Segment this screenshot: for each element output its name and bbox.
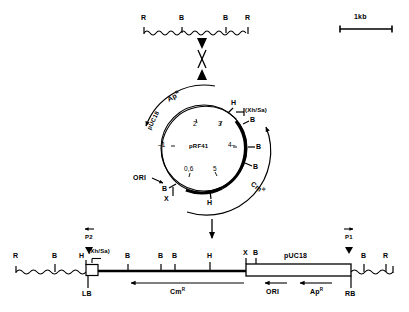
map-gene-ApR-text: Ap xyxy=(310,288,320,295)
plasmid-tick-2: 2 xyxy=(193,121,197,128)
plasmid-ori-label: ORI xyxy=(133,174,146,181)
map-site-X: X xyxy=(243,249,248,256)
plasmid-tick-5: 5 xyxy=(213,166,217,173)
scale-bar-label: 1kb xyxy=(354,13,367,20)
map-site-R-right: R xyxy=(383,252,388,259)
plasmid-site-H-bottom: H xyxy=(207,199,212,206)
plasmid-tick-06: 0,6 xyxy=(184,166,194,173)
map-gene-CmR: CmR xyxy=(170,288,185,295)
plasmid-site-B-lower: B xyxy=(253,163,258,170)
plasmid-site-B-mid: B xyxy=(256,143,261,150)
map-site-R-left: R xyxy=(13,252,18,259)
top-site-B-1: B xyxy=(179,14,184,21)
primer-markers xyxy=(85,229,353,254)
diagram-vector-layer xyxy=(0,0,409,312)
map-gene-CmR-sup: R xyxy=(182,287,185,292)
top-genomic-line xyxy=(144,27,248,35)
plasmid-site-B-upper: B xyxy=(250,116,255,123)
top-site-R-right: R xyxy=(245,14,250,21)
map-box-label-pUC18: pUC18 xyxy=(284,252,307,259)
map-site-B-3: B xyxy=(158,252,163,259)
figure-canvas: R B B R 1kb ApR pUC18 CmR ORI pRF41 –1 2… xyxy=(0,0,409,312)
plasmid-site-XhSa: (Xh/Sa) xyxy=(245,107,267,113)
map-site-B-5: B xyxy=(253,249,258,256)
top-site-R-left: R xyxy=(141,14,146,21)
map-site-H-left: H xyxy=(79,252,84,259)
map-site-B-2: B xyxy=(125,252,130,259)
primer-label-P1: P1 xyxy=(345,234,353,240)
map-gene-ApR: ApR xyxy=(310,288,323,295)
scale-bar xyxy=(340,26,392,33)
map-border-LB: LB xyxy=(82,290,92,297)
map-gene-CmR-text: Cm xyxy=(170,288,182,295)
crossover-symbol xyxy=(197,38,207,80)
map-site-B-4: B xyxy=(172,252,177,259)
primer-label-P2: P2 xyxy=(85,234,93,240)
map-site-B-1: B xyxy=(52,252,57,259)
map-site-B-6: B xyxy=(361,252,366,259)
plasmid-name: pRF41 xyxy=(189,143,208,149)
bottom-map-line xyxy=(16,264,393,276)
map-site-XhSa: (Xh/Sa) xyxy=(88,248,110,254)
map-gene-ApR-sup: R xyxy=(320,287,323,292)
ori-arrow xyxy=(152,178,163,183)
top-site-B-2: B xyxy=(223,14,228,21)
map-gene-ORI: ORI xyxy=(266,288,279,295)
plasmid-site-B-left: B xyxy=(162,185,167,192)
plasmid-tick-3: 3 xyxy=(218,121,222,128)
map-site-H-mid: H xyxy=(207,252,212,259)
map-border-RB: RB xyxy=(345,290,356,297)
plasmid-tick-1: –1 xyxy=(158,142,166,149)
plasmid-site-X: X xyxy=(164,195,169,202)
plasmid-site-H-top: H xyxy=(231,99,236,106)
plasmid-tick-4: 4– xyxy=(228,142,236,149)
